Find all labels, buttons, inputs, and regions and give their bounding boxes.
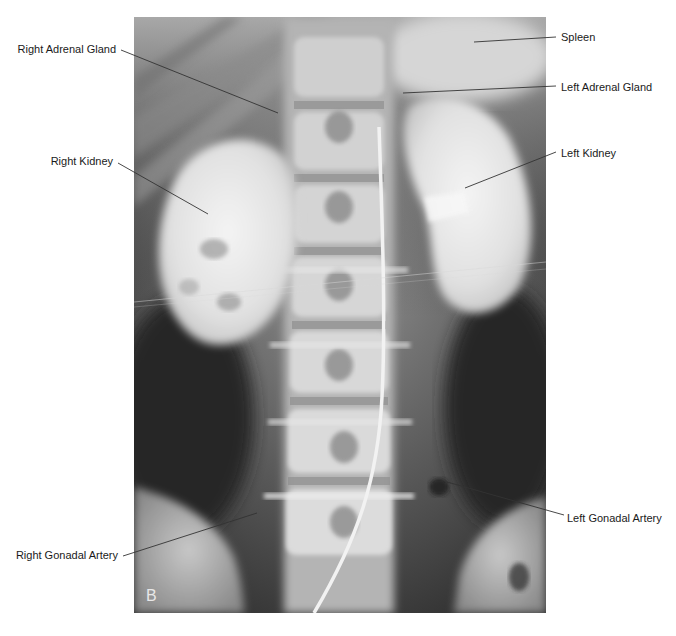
panel-letter: B: [146, 588, 157, 604]
label-right-gonadal-artery: Right Gonadal Artery: [16, 549, 118, 561]
xray-image: [134, 17, 546, 613]
xray-graphic: [134, 17, 546, 613]
label-right-adrenal-gland: Right Adrenal Gland: [18, 43, 116, 55]
label-left-kidney: Left Kidney: [561, 147, 616, 159]
label-left-gonadal-artery: Left Gonadal Artery: [567, 512, 662, 524]
label-right-kidney: Right Kidney: [51, 155, 113, 167]
label-left-adrenal-gland: Left Adrenal Gland: [561, 81, 652, 93]
label-spleen: Spleen: [561, 31, 595, 43]
anatomy-figure: Right Adrenal Gland Right Kidney Right G…: [0, 0, 676, 636]
